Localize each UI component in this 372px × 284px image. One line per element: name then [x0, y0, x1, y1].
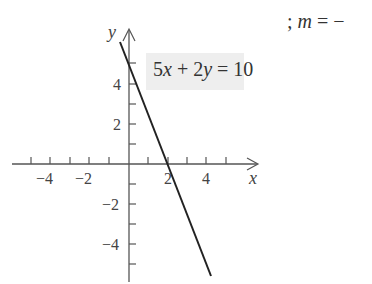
slope-suffix: = −	[312, 10, 345, 32]
y-tick-label: −4	[102, 236, 119, 253]
y-tick-label: 2	[113, 116, 121, 133]
y-axis-label: y	[106, 22, 116, 42]
y-tick-label: −2	[102, 196, 119, 213]
equation-var-y: y	[203, 58, 212, 80]
coordinate-plane: −4 −2 2 4 4 2 −2 −4 x y	[0, 0, 372, 284]
x-tick-label: −2	[75, 170, 92, 187]
x-tick-label: 4	[202, 170, 210, 187]
x-axis-label: x	[248, 168, 257, 188]
equation-coef: + 2	[172, 58, 203, 80]
equation-rhs: = 10	[212, 58, 253, 80]
equation-coef: 5	[153, 58, 163, 80]
equation-label: 5x + 2y = 10	[153, 58, 253, 81]
slope-var: m	[298, 10, 312, 32]
slope-label: ; m = −	[287, 10, 345, 33]
slope-prefix: ;	[287, 10, 298, 32]
equation-var-x: x	[163, 58, 172, 80]
y-tick-label: 4	[113, 76, 121, 93]
x-tick-label: −4	[36, 170, 53, 187]
